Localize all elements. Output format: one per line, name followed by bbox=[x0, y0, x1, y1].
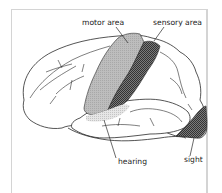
label-motor-area: motor area bbox=[82, 18, 124, 27]
brain-diagram: motor area sensory area hearing sight bbox=[0, 0, 222, 193]
label-hearing: hearing bbox=[118, 157, 147, 166]
label-sight: sight bbox=[184, 155, 203, 164]
label-sensory-area: sensory area bbox=[153, 18, 202, 27]
